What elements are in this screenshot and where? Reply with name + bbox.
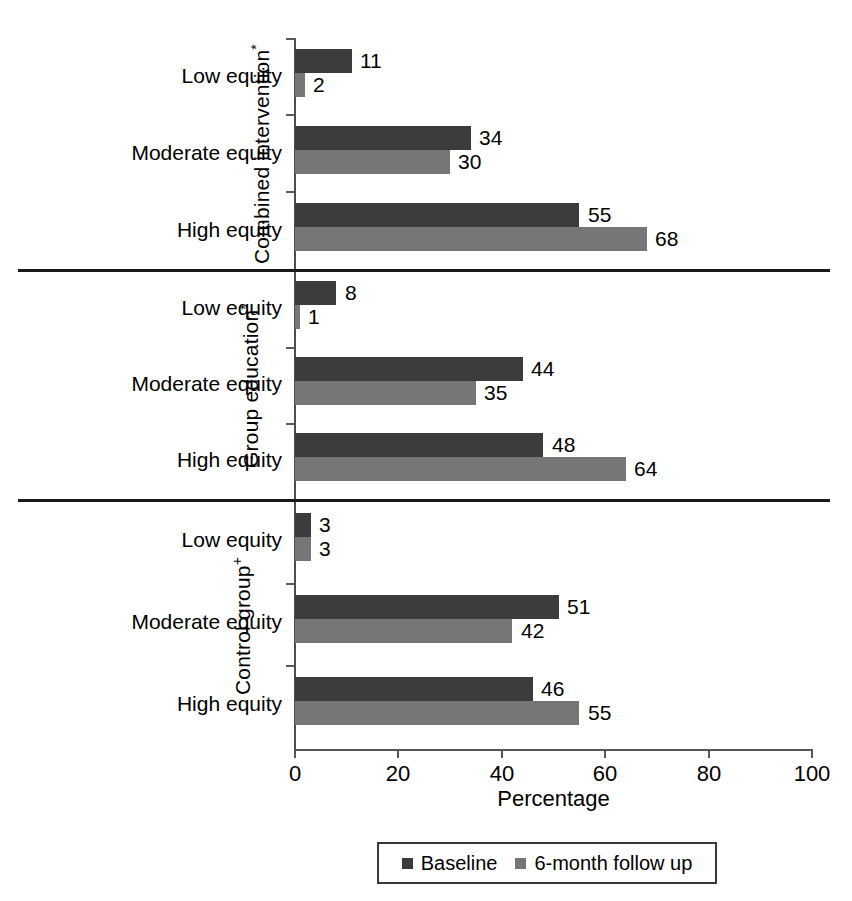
legend-item-followup: 6-month follow up xyxy=(515,852,692,875)
x-tick-80 xyxy=(708,749,710,758)
row-low-equity: Low equity 11 2 xyxy=(0,38,852,115)
x-axis-title: Percentage xyxy=(295,786,812,812)
value-followup-moderate-equity: 30 xyxy=(458,150,481,174)
bar-followup-moderate-equity xyxy=(295,150,450,174)
value-baseline-high-equity: 48 xyxy=(552,433,575,457)
x-tick-label-100: 100 xyxy=(794,761,831,787)
bar-baseline-low-equity xyxy=(295,513,311,537)
x-tick-0 xyxy=(294,749,296,758)
legend-item-baseline: Baseline xyxy=(402,852,498,875)
row-high-equity: High equity 48 64 xyxy=(0,424,852,500)
category-tick xyxy=(286,38,295,40)
value-baseline-high-equity: 46 xyxy=(541,677,564,701)
bar-baseline-moderate-equity xyxy=(295,357,523,381)
category-label-moderate-equity: Moderate equity xyxy=(60,141,282,165)
value-followup-moderate-equity: 42 xyxy=(521,619,544,643)
bar-baseline-high-equity xyxy=(295,203,579,227)
row-low-equity: Low equity 3 3 xyxy=(0,502,852,584)
legend-label-baseline: Baseline xyxy=(421,852,498,875)
x-tick-label-40: 40 xyxy=(490,761,514,787)
chart-legend: Baseline 6-month follow up xyxy=(377,842,717,884)
category-label-low-equity: Low equity xyxy=(60,64,282,88)
value-baseline-moderate-equity: 51 xyxy=(567,595,590,619)
bar-chart-figure: Combined intervention* Low equity 11 2 M… xyxy=(0,0,852,901)
bar-baseline-low-equity xyxy=(295,281,336,305)
legend-swatch-baseline-icon xyxy=(402,858,413,869)
x-tick-label-80: 80 xyxy=(697,761,721,787)
row-low-equity: Low equity 8 1 xyxy=(0,272,852,348)
x-tick-label-0: 0 xyxy=(289,761,301,787)
value-baseline-low-equity: 8 xyxy=(345,281,357,305)
row-moderate-equity: Moderate equity 51 42 xyxy=(0,584,852,666)
value-baseline-high-equity: 55 xyxy=(588,203,611,227)
row-moderate-equity: Moderate equity 34 30 xyxy=(0,115,852,192)
panel-combined-intervention: Combined intervention* Low equity 11 2 M… xyxy=(0,38,852,269)
bar-followup-low-equity xyxy=(295,73,305,97)
legend-label-followup: 6-month follow up xyxy=(534,852,692,875)
category-label-moderate-equity: Moderate equity xyxy=(60,372,282,396)
bar-followup-high-equity xyxy=(295,701,579,725)
bar-followup-low-equity xyxy=(295,305,300,329)
value-baseline-low-equity: 3 xyxy=(319,513,331,537)
x-tick-20 xyxy=(397,749,399,758)
bar-baseline-high-equity xyxy=(295,433,543,457)
bar-baseline-low-equity xyxy=(295,49,352,73)
x-tick-100 xyxy=(811,749,813,758)
value-axis-line xyxy=(294,749,813,751)
value-baseline-moderate-equity: 34 xyxy=(479,126,502,150)
x-tick-60 xyxy=(604,749,606,758)
panel-control-group: Control group+ Low equity 3 3 Moderate e… xyxy=(0,502,852,749)
value-followup-high-equity: 68 xyxy=(655,227,678,251)
legend-swatch-followup-icon xyxy=(515,858,526,869)
category-label-moderate-equity: Moderate equity xyxy=(60,610,282,634)
bar-followup-high-equity xyxy=(295,457,626,481)
bar-baseline-moderate-equity xyxy=(295,595,559,619)
bar-baseline-high-equity xyxy=(295,677,533,701)
bar-followup-moderate-equity xyxy=(295,381,476,405)
value-followup-low-equity: 1 xyxy=(308,305,320,329)
x-tick-40 xyxy=(501,749,503,758)
value-followup-moderate-equity: 35 xyxy=(484,381,507,405)
bar-followup-moderate-equity xyxy=(295,619,512,643)
row-high-equity: High equity 55 68 xyxy=(0,192,852,269)
category-label-low-equity: Low equity xyxy=(60,528,282,552)
value-followup-high-equity: 55 xyxy=(588,701,611,725)
category-label-high-equity: High equity xyxy=(60,218,282,242)
bar-followup-high-equity xyxy=(295,227,647,251)
x-tick-label-20: 20 xyxy=(386,761,410,787)
value-baseline-low-equity: 11 xyxy=(360,49,382,73)
category-label-high-equity: High equity xyxy=(60,448,282,472)
row-high-equity: High equity 46 55 xyxy=(0,666,852,749)
bar-baseline-moderate-equity xyxy=(295,126,471,150)
value-baseline-moderate-equity: 44 xyxy=(531,357,554,381)
value-followup-low-equity: 3 xyxy=(319,537,331,561)
panel-group-education: Group education* Low equity 8 1 Moderate… xyxy=(0,272,852,499)
row-moderate-equity: Moderate equity 44 35 xyxy=(0,348,852,424)
x-tick-label-60: 60 xyxy=(593,761,617,787)
category-label-high-equity: High equity xyxy=(60,692,282,716)
bar-followup-low-equity xyxy=(295,537,311,561)
value-followup-low-equity: 2 xyxy=(313,73,325,97)
value-followup-high-equity: 64 xyxy=(634,457,657,481)
category-label-low-equity: Low equity xyxy=(60,296,282,320)
